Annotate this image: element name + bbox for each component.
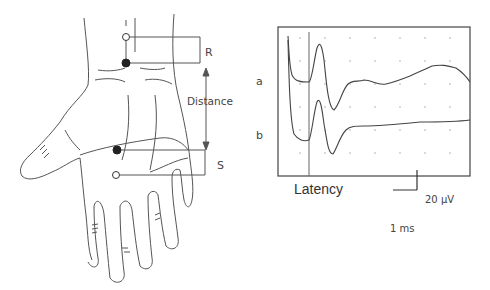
hand-outline [20, 14, 192, 282]
scale-bar [393, 170, 417, 190]
trace-frame [278, 27, 470, 176]
electrode-stimulation-cathode [113, 146, 121, 154]
electrode-recording-active [122, 59, 130, 67]
label-time-scale: 1 ms [390, 224, 415, 234]
trace-a [288, 36, 470, 110]
figure-canvas [0, 0, 490, 290]
grid-dots [299, 37, 451, 154]
label-amplitude-scale: 20 µV [425, 195, 454, 205]
electrode-recording-reference [123, 34, 130, 41]
label-trace-a: a [256, 76, 263, 87]
label-trace-b: b [256, 130, 263, 141]
label-stimulation: S [217, 160, 224, 171]
label-distance: Distance [187, 96, 233, 107]
label-recording: R [205, 47, 213, 58]
electrode-stimulation-anode [113, 172, 120, 179]
label-latency: Latency [294, 182, 343, 196]
